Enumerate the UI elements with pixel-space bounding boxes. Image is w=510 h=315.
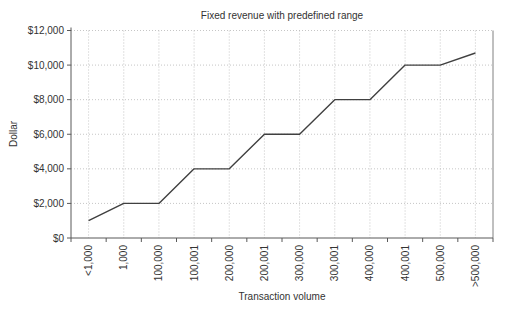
x-tick-label: 300,001	[329, 245, 340, 282]
x-tick-label: >500,000	[470, 245, 481, 287]
y-tick-label: $4,000	[33, 163, 64, 174]
x-tick-label: 1,000	[118, 245, 129, 270]
x-tick-label: 100,000	[153, 245, 164, 282]
y-tick-label: $8,000	[33, 94, 64, 105]
chart-figure: Fixed revenue with predefined range Doll…	[0, 0, 510, 315]
y-tick-label: $10,000	[28, 60, 65, 71]
y-tick-label: $2,000	[33, 198, 64, 209]
x-tick-label: 300,000	[294, 245, 305, 282]
y-tick-label: $12,000	[28, 25, 65, 36]
x-tick-label: 400,001	[400, 245, 411, 282]
x-tick-label: 200,001	[259, 245, 270, 282]
x-tick-label: 200,000	[224, 245, 235, 282]
x-tick-label: 400,000	[364, 245, 375, 282]
series-line	[89, 53, 476, 221]
x-tick-label: 500,000	[435, 245, 446, 282]
x-tick-label: <1,000	[83, 245, 94, 276]
x-tick-label: 100,001	[189, 245, 200, 282]
y-tick-label: $6,000	[33, 129, 64, 140]
y-tick-label: $0	[53, 233, 65, 244]
plot-area: $0$2,000$4,000$6,000$8,000$10,000$12,000…	[0, 0, 510, 315]
